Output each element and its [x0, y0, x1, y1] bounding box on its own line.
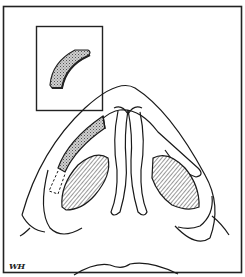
right-nostril: [152, 156, 199, 210]
illustration: [0, 0, 245, 277]
artist-signature: WH: [9, 261, 25, 271]
graft-extension-dashed: [49, 171, 65, 194]
nose-outline: [20, 86, 229, 276]
graft-inset: [37, 27, 103, 111]
